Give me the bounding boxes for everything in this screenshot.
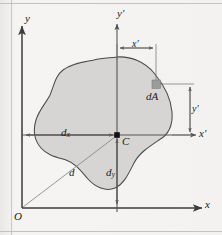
centroid-label: C xyxy=(122,136,129,147)
figure-panel: y x O y' x' C dA x' y' dx dy d xyxy=(0,0,222,235)
x-prime-dimension-label: x' xyxy=(132,39,139,49)
dy-dimension-label: dy xyxy=(106,167,115,180)
dy-symbol: d xyxy=(106,166,112,178)
y-prime-dimension-label: y' xyxy=(192,104,199,114)
dx-subscript: x xyxy=(67,131,70,139)
y-prime-axis-label: y' xyxy=(117,8,124,19)
diagram-canvas xyxy=(0,0,222,235)
origin-label: O xyxy=(14,211,22,222)
centroid-marker xyxy=(114,132,120,138)
y-axis-label: y xyxy=(25,13,30,24)
d-radial-label: d xyxy=(69,167,75,178)
dy-subscript: y xyxy=(112,171,115,179)
x-axis-label: x xyxy=(205,199,210,210)
x-prime-axis-label: x' xyxy=(199,128,206,139)
dx-dimension-label: dx xyxy=(61,127,70,140)
differential-area-element xyxy=(152,80,161,89)
plane-area-region xyxy=(34,57,172,190)
dx-symbol: d xyxy=(61,126,67,138)
element-label: dA xyxy=(146,91,158,102)
